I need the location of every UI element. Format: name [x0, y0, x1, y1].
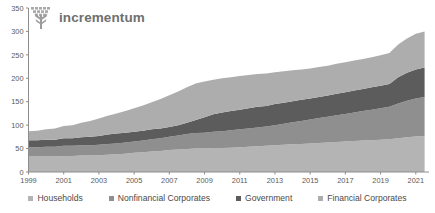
y-tick-label: 300	[11, 27, 23, 36]
x-tick-label: 2005	[126, 176, 142, 185]
x-tick-label: 2021	[408, 176, 424, 185]
x-tick-label: 1999	[20, 176, 36, 185]
legend-label: Nonfinancial Corporates	[118, 194, 210, 203]
x-tick-label: 2015	[302, 176, 318, 185]
y-tick-label: 100	[11, 121, 23, 130]
chart-legend: HouseholdsNonfinancial CorporatesGovernm…	[0, 194, 435, 203]
x-tick-label: 2019	[372, 176, 388, 185]
x-tick-label: 2003	[91, 176, 107, 185]
legend-swatch-icon	[109, 196, 114, 201]
y-tick-label: 50	[15, 144, 23, 153]
x-tick-label: 2009	[196, 176, 212, 185]
y-tick-label: 250	[11, 51, 23, 60]
y-tick-label: 150	[11, 97, 23, 106]
legend-item[interactable]: Government	[236, 194, 292, 203]
chart-container: incrementum 050100150200250300350 199920…	[0, 0, 435, 213]
legend-swatch-icon	[236, 196, 241, 201]
x-tick-label: 2007	[161, 176, 177, 185]
brand-name: incrementum	[59, 11, 145, 25]
area-series-group	[29, 31, 425, 172]
x-tick-label: 2017	[337, 176, 353, 185]
x-tick-label: 2001	[55, 176, 71, 185]
legend-swatch-icon	[28, 196, 33, 201]
y-tick-label: 350	[11, 4, 23, 13]
x-tick-label: 2011	[232, 176, 248, 185]
legend-label: Financial Corporates	[327, 194, 406, 203]
y-tick-label: 200	[11, 74, 23, 83]
legend-label: Households	[37, 194, 82, 203]
legend-item[interactable]: Households	[28, 194, 82, 203]
legend-swatch-icon	[318, 196, 323, 201]
legend-item[interactable]: Financial Corporates	[318, 194, 406, 203]
legend-item[interactable]: Nonfinancial Corporates	[109, 194, 210, 203]
stacked-area-plot: 050100150200250300350 199920012003200520…	[0, 0, 435, 213]
x-axis-labels: 1999200120032005200720092011201320152017…	[20, 176, 424, 185]
tree-icon	[30, 6, 52, 30]
legend-label: Government	[245, 194, 292, 203]
x-tick-label: 2013	[267, 176, 283, 185]
y-axis-labels: 050100150200250300350	[11, 4, 23, 177]
brand-logo: incrementum	[30, 6, 145, 30]
